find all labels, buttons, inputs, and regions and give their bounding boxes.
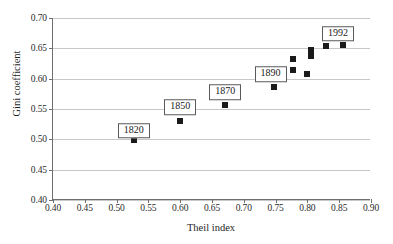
gridline-horizontal xyxy=(53,170,370,171)
x-axis-tick-label: 0.55 xyxy=(140,203,156,213)
year-callout-label: 1850 xyxy=(164,99,196,115)
y-axis-tick-label: 0.60 xyxy=(31,74,47,84)
data-point-marker xyxy=(323,43,329,49)
x-axis-tick-label: 0.75 xyxy=(267,203,283,213)
y-axis-tick-label: 0.70 xyxy=(31,13,47,23)
year-callout-label: 1870 xyxy=(209,84,241,100)
year-callout-label: 1820 xyxy=(118,123,150,139)
y-axis-title: Gini coefficient xyxy=(11,24,22,144)
y-axis-tick xyxy=(49,109,53,110)
x-axis-tick-label: 0.85 xyxy=(331,203,347,213)
gridline-horizontal xyxy=(53,79,370,80)
x-axis-tick-label: 0.90 xyxy=(363,203,379,213)
year-callout-label: 1890 xyxy=(255,67,287,83)
gridline-horizontal xyxy=(53,139,370,140)
scatter-chart: 0.400.450.500.550.600.650.700.400.450.50… xyxy=(0,0,393,244)
y-axis-tick xyxy=(49,18,53,19)
y-axis-tick xyxy=(49,48,53,49)
x-axis-tick-label: 0.40 xyxy=(45,203,61,213)
data-point-marker xyxy=(304,71,310,77)
y-axis-tick-label: 0.50 xyxy=(31,134,47,144)
x-axis-tick-label: 0.80 xyxy=(299,203,315,213)
y-axis-tick-label: 0.55 xyxy=(31,104,47,114)
y-axis-tick-label: 0.65 xyxy=(31,43,47,53)
data-point-marker xyxy=(222,102,228,108)
y-axis-tick-label: 0.45 xyxy=(31,165,47,175)
x-axis-tick-label: 0.50 xyxy=(108,203,124,213)
data-point-marker xyxy=(308,53,314,59)
x-axis-tick-label: 0.60 xyxy=(172,203,188,213)
year-callout-label: 1992 xyxy=(322,26,354,42)
x-axis-tick-label: 0.45 xyxy=(77,203,93,213)
y-axis-tick xyxy=(49,79,53,80)
data-point-marker xyxy=(177,118,183,124)
data-point-marker xyxy=(340,42,346,48)
data-point-marker xyxy=(290,67,296,73)
x-axis-tick-label: 0.70 xyxy=(236,203,252,213)
data-point-marker xyxy=(290,56,296,62)
y-axis-tick xyxy=(49,170,53,171)
plot-area: 0.400.450.500.550.600.650.700.400.450.50… xyxy=(52,18,370,200)
x-axis-title: Theil index xyxy=(52,222,370,233)
y-axis-tick xyxy=(49,139,53,140)
data-point-marker xyxy=(271,84,277,90)
x-axis-tick-label: 0.65 xyxy=(204,203,220,213)
data-point-marker xyxy=(308,47,314,53)
gridline-horizontal xyxy=(53,18,370,19)
gridline-horizontal xyxy=(53,109,370,110)
